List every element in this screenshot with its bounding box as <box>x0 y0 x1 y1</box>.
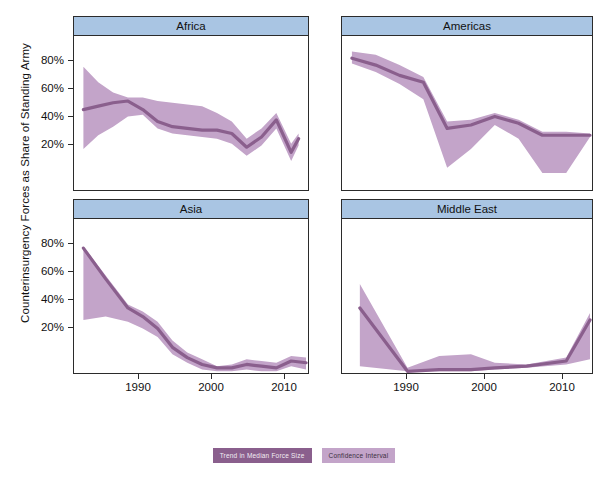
panel-title-text: Americas <box>443 20 491 32</box>
median-trend-line <box>352 58 590 135</box>
x-tick-label: 1990 <box>383 381 429 393</box>
series-americas <box>342 36 592 190</box>
panel-middle-east: Middle East <box>341 199 593 374</box>
confidence-band <box>83 246 306 371</box>
x-tick-mark <box>406 374 407 379</box>
series-africa <box>74 36 308 190</box>
panel-title-middle-east: Middle East <box>341 199 593 219</box>
x-tick-mark <box>284 374 285 379</box>
plot-area-africa <box>73 36 309 191</box>
y-tick-label: 20% <box>26 321 64 333</box>
plot-area-asia <box>73 219 309 374</box>
y-tick-label: 40% <box>26 110 64 122</box>
chart-legend: Trend in Median Force Size Confidence In… <box>0 448 608 463</box>
x-tick-mark <box>211 374 212 379</box>
y-tick-label: 20% <box>26 138 64 150</box>
y-tick-label: 80% <box>26 237 64 249</box>
panel-africa: Africa <box>73 16 309 191</box>
legend-item-confidence-interval: Confidence Interval <box>322 448 396 463</box>
panel-title-africa: Africa <box>73 16 309 36</box>
confidence-band <box>83 67 298 161</box>
panel-title-text: Middle East <box>437 203 497 215</box>
series-middle-east <box>342 219 592 373</box>
x-tick-mark <box>484 374 485 379</box>
x-tick-mark <box>138 374 139 379</box>
x-tick-mark <box>562 374 563 379</box>
y-tick-label: 60% <box>26 265 64 277</box>
plot-area-americas <box>341 36 593 191</box>
confidence-band <box>360 284 590 371</box>
y-tick-label: 60% <box>26 82 64 94</box>
panel-title-asia: Asia <box>73 199 309 219</box>
panel-title-text: Africa <box>176 20 205 32</box>
legend-label: Trend in Median Force Size <box>220 452 305 459</box>
x-tick-label: 2000 <box>188 381 234 393</box>
panel-title-text: Asia <box>180 203 202 215</box>
plot-area-middle-east <box>341 219 593 374</box>
chart-figure: Counterinsurgency Forces as Share of Sta… <box>0 0 608 480</box>
x-tick-label: 2010 <box>539 381 585 393</box>
x-tick-label: 2010 <box>261 381 307 393</box>
panel-title-americas: Americas <box>341 16 593 36</box>
x-tick-label: 1990 <box>115 381 161 393</box>
y-tick-label: 40% <box>26 293 64 305</box>
y-tick-label: 80% <box>26 54 64 66</box>
panel-americas: Americas <box>341 16 593 191</box>
panel-asia: Asia <box>73 199 309 374</box>
series-asia <box>74 219 308 373</box>
legend-item-trend: Trend in Median Force Size <box>213 448 312 463</box>
x-tick-label: 2000 <box>461 381 507 393</box>
legend-label: Confidence Interval <box>329 452 389 459</box>
